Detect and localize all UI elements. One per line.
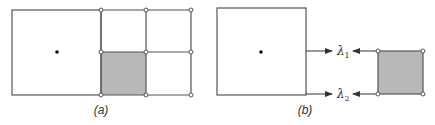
shaded-fine-cell-b <box>378 51 423 94</box>
center-point-icon <box>55 50 59 54</box>
panel-a: (a) <box>12 8 193 117</box>
caption-b: (b) <box>298 103 313 117</box>
lambda-2-label: λ2 <box>336 87 350 103</box>
figure-canvas: (a) λ1 λ2 (b) <box>0 0 435 125</box>
lambda-1-label: λ1 <box>336 44 350 60</box>
center-point-icon <box>259 50 263 54</box>
panel-b: λ1 λ2 (b) <box>217 8 425 117</box>
caption-a: (a) <box>94 103 109 117</box>
shaded-fine-cell <box>101 52 146 95</box>
